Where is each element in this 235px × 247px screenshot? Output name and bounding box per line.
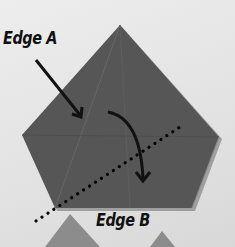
- lower-shape-right: [150, 231, 175, 247]
- lower-shape-left: [45, 214, 100, 247]
- diagram-canvas: Edge A Edge B: [0, 0, 235, 247]
- edge-b-label: Edge B: [96, 210, 150, 230]
- edge-a-label: Edge A: [3, 28, 57, 48]
